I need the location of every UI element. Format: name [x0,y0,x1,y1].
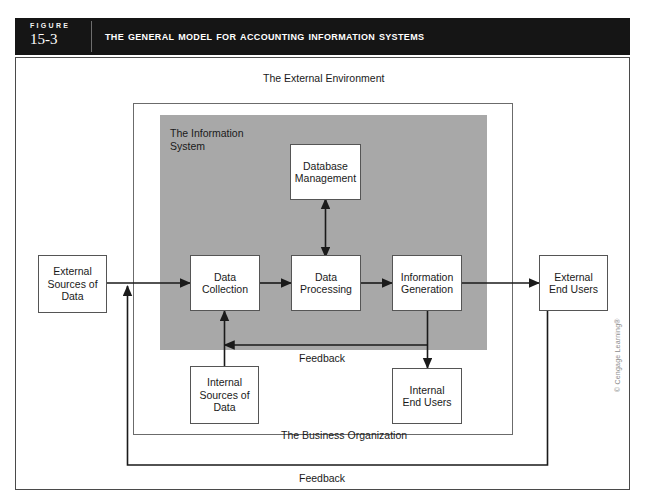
box-internal-end-users[interactable] [393,369,462,424]
outer-feedback-label: Feedback [299,472,345,485]
box-external-sources-of-data[interactable] [39,256,107,313]
inner-feedback-label: Feedback [299,352,345,365]
box-database-management[interactable] [291,145,361,200]
box-internal-sources-of-data[interactable] [191,367,259,424]
copyright-credit: © Cengage Learning® [614,302,621,392]
information-system-label: The Information System [170,127,244,152]
box-information-generation[interactable] [393,256,462,311]
business-organization-label: The Business Organization [281,429,407,442]
box-external-end-users[interactable] [540,256,608,311]
box-data-collection[interactable] [191,256,260,311]
information-system-label-line1: The Information [170,127,244,140]
information-system-label-line2: System [170,140,244,153]
external-environment-label: The External Environment [263,72,384,85]
box-data-processing[interactable] [292,256,361,311]
